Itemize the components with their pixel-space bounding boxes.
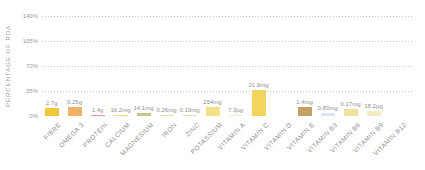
bar: [114, 115, 128, 116]
bar: [252, 90, 266, 116]
bar-value-label: 0.17mg: [340, 101, 360, 108]
bar-value-label: 0.19mg: [179, 107, 199, 114]
y-tick-label: 140%: [12, 12, 38, 20]
bar: [298, 107, 312, 116]
bar: [68, 107, 82, 116]
bar-value-label: 1.4g: [92, 107, 104, 114]
x-category-label: FIBRE: [43, 121, 63, 141]
bar-value-label: 7.3µg: [228, 107, 243, 114]
bar: [45, 108, 59, 116]
y-tick-label: 0%: [12, 112, 38, 120]
bar: [367, 111, 381, 116]
bar: [160, 115, 174, 116]
bar-value-label: 0.83mg: [317, 105, 337, 112]
bar-value-label: 254mg: [203, 99, 221, 106]
bar-value-label: 0.25g: [67, 99, 82, 106]
bar: [137, 113, 151, 116]
y-axis-title: PERCENTAGE OF RDA: [5, 14, 11, 118]
bar: [321, 113, 335, 116]
x-category-label: IRON: [160, 121, 178, 139]
y-tick-label: 70%: [12, 62, 38, 70]
bar: [91, 115, 105, 116]
bar-value-label: 21.9mg: [248, 82, 268, 89]
gridline: [42, 66, 413, 67]
bar-value-label: 2.7g: [46, 100, 58, 107]
gridline: [42, 91, 413, 92]
bar-value-label: 14.1mg: [133, 105, 153, 112]
bar: [229, 115, 243, 116]
gridline: [42, 16, 413, 17]
y-tick-label: 105%: [12, 37, 38, 45]
bar-value-label: 18.2µg: [364, 103, 382, 110]
x-category-label: ZINC: [184, 121, 201, 138]
bar: [183, 115, 197, 116]
bar-value-label: 16.2mg: [110, 107, 130, 114]
gridline: [42, 41, 413, 42]
bar-value-label: 1.4mg: [296, 99, 313, 106]
bar: [344, 109, 358, 116]
bar: [206, 107, 220, 116]
rda-nutrition-bar-chart: PERCENTAGE OF RDA 140%105%70%35%0%2.7gFI…: [0, 0, 425, 170]
bar-value-label: 0.26mg: [156, 107, 176, 114]
y-tick-label: 35%: [12, 87, 38, 95]
